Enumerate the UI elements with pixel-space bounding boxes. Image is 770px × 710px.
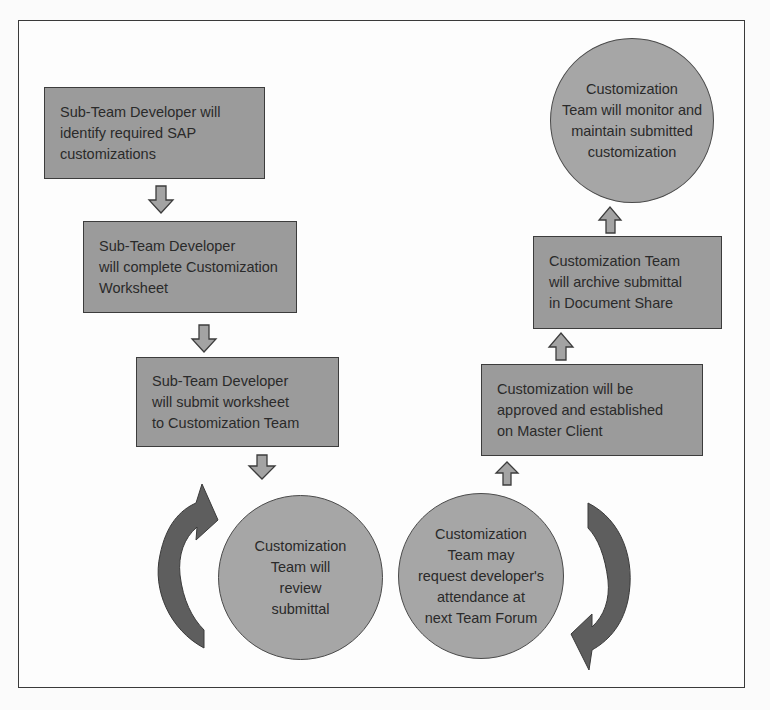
- step-label: Customization will be approved and estab…: [497, 379, 663, 442]
- step-label: Customization Team will archive submitta…: [549, 251, 682, 314]
- step-label: Customization Team will review submittal: [255, 536, 347, 620]
- step-identify-customizations: Sub-Team Developer will identify require…: [44, 87, 265, 179]
- step-monitor-maintain: Customization Team will monitor and main…: [550, 38, 714, 203]
- step-request-attendance: Customization Team may request developer…: [398, 493, 564, 659]
- step-review-submittal: Customization Team will review submittal: [218, 495, 383, 660]
- step-approve-establish: Customization will be approved and estab…: [481, 364, 703, 456]
- step-label: Sub-Team Developer will submit worksheet…: [152, 371, 299, 434]
- step-label: Customization Team may request developer…: [418, 524, 544, 629]
- step-label: Customization Team will monitor and main…: [562, 79, 702, 163]
- step-label: Sub-Team Developer will complete Customi…: [99, 236, 278, 299]
- step-label: Sub-Team Developer will identify require…: [60, 102, 220, 165]
- step-complete-worksheet: Sub-Team Developer will complete Customi…: [83, 221, 297, 313]
- step-submit-worksheet: Sub-Team Developer will submit worksheet…: [136, 357, 339, 447]
- step-archive-submittal: Customization Team will archive submitta…: [533, 236, 722, 329]
